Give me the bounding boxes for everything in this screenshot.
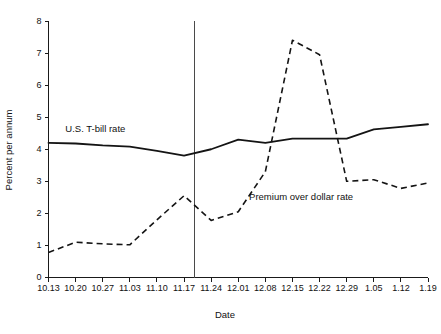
y-tick-label: 8 [36, 16, 41, 26]
x-tick-label: 12.15 [281, 283, 304, 293]
y-tick-label: 6 [36, 80, 41, 90]
y-tick-label: 3 [36, 176, 41, 186]
x-tick-label: 11.10 [146, 283, 168, 293]
x-tick-label: 10.27 [91, 283, 114, 293]
x-tick-label: 11.03 [119, 283, 141, 293]
y-tick-label: 4 [36, 144, 41, 154]
series-label-us-tbill-rate: U.S. T-bill rate [65, 123, 125, 134]
x-tick-label: 12.01 [227, 283, 250, 293]
chart-figure: 012345678 10.1310.2010.2711.0311.1011.17… [0, 0, 441, 334]
y-tick-label: 0 [36, 272, 41, 282]
x-tick-label: 12.08 [254, 283, 277, 293]
y-tick-label: 7 [36, 48, 41, 58]
x-tick-label: 11.17 [173, 283, 195, 293]
x-tick-label: 1.12 [392, 283, 410, 293]
x-tick-label: 12.22 [308, 283, 331, 293]
y-axis-title: Percent per annum [3, 110, 14, 191]
y-tick-label: 2 [36, 208, 41, 218]
x-tick-label: 12.29 [335, 283, 358, 293]
line-chart-canvas: 012345678 10.1310.2010.2711.0311.1011.17… [0, 0, 441, 334]
x-tick-label: 10.20 [64, 283, 87, 293]
x-tick-label: 1.19 [419, 283, 437, 293]
x-axis-title: Date [215, 309, 235, 320]
series-label-premium-over-dollar-rate: Premium over dollar rate [249, 191, 353, 202]
y-tick-label: 1 [36, 240, 41, 250]
x-tick-label: 10.13 [37, 283, 60, 293]
x-tick-label: 1.05 [365, 283, 383, 293]
x-tick-label: 11.24 [200, 283, 222, 293]
y-tick-label: 5 [36, 112, 41, 122]
